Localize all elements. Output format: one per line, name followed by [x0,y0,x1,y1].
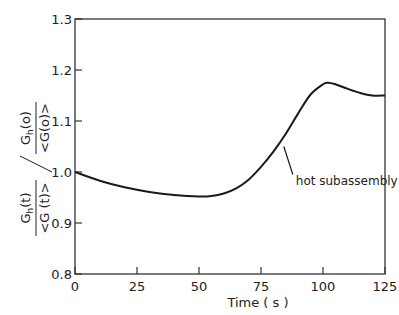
y-tick-label: 1.0 [51,165,72,180]
plot-frame [75,19,385,274]
y-tick-label: 0.8 [51,267,72,282]
plot-border [75,19,385,274]
y-num2: Gh(o) [18,111,35,145]
y-tick-label: 0.9 [51,216,72,231]
y-tick-label: 1.1 [51,114,72,129]
y-num: Gh(t) [18,192,35,223]
y-den2: <G(o)> [37,103,52,153]
annotation-hot-subassembly: hot subassembly [296,174,398,188]
y-divide-slash [20,156,52,172]
y-tick-label: 1.3 [51,12,72,27]
x-tick-label: 125 [373,279,398,294]
x-tick-label: 0 [71,279,79,294]
y-axis-ticks: 0.80.91.01.11.21.3 [51,12,82,282]
y-tick-label: 1.2 [51,63,72,78]
chart: 0.80.91.01.11.21.3 0255075100125 hot sub… [0,0,399,315]
x-tick-label: 75 [253,279,270,294]
x-tick-label: 50 [191,279,208,294]
x-tick-label: 25 [129,279,146,294]
annotation-leader [284,147,293,175]
y-den: <G (t)> [37,182,52,233]
y-axis-title: Gh(t) <G (t)> Gh(o) <G(o)> [18,102,52,236]
x-axis-title: Time ( s ) [226,295,288,310]
x-axis-ticks: 0255075100125 [71,267,398,294]
x-tick-label: 100 [311,279,336,294]
